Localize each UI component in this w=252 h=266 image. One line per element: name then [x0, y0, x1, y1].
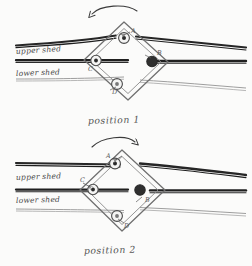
caption-position-1: position 1 [88, 114, 140, 126]
pulley-c-hub [91, 188, 95, 192]
point-label-a: A [130, 27, 136, 35]
diagram-position-2: A B C D upper shed lower shed position 2 [16, 137, 246, 256]
rotation-arrow-cw-icon [92, 137, 135, 147]
warp-threads-middle [16, 190, 246, 193]
diagram-canvas: A B C D upper shed lower shed position 1 [0, 0, 252, 266]
lower-shed-label: lower shed [16, 195, 60, 205]
point-label-c: C [88, 65, 93, 73]
pulley-a-hub [113, 162, 117, 166]
point-label-d: D [123, 222, 129, 230]
point-label-b: B [144, 196, 150, 204]
rotation-arrow-ccw-icon [92, 6, 137, 14]
pulley-d-hub [115, 214, 119, 218]
point-label-c: C [80, 176, 85, 184]
warp-threads-lower [16, 208, 246, 217]
pulley-c-hub [94, 59, 98, 63]
point-label-d: D [111, 88, 117, 96]
pulley-b [147, 56, 157, 66]
upper-shed-label: upper shed [16, 44, 62, 56]
point-label-b: B [156, 49, 162, 57]
diagram-position-1: A B C D upper shed lower shed position 1 [16, 6, 246, 126]
upper-shed-label: upper shed [16, 171, 62, 182]
pulley-d-hub [115, 82, 119, 86]
drawing-sheet: A B C D upper shed lower shed position 1 [0, 0, 252, 266]
lower-shed-label: lower shed [16, 67, 60, 78]
warp-threads-middle [16, 60, 246, 63]
pulley-a-hub [122, 36, 126, 40]
caption-position-2: position 2 [84, 244, 136, 256]
pulley-b [135, 185, 145, 195]
point-label-a: A [105, 152, 111, 160]
warp-threads-lower [16, 77, 246, 91]
